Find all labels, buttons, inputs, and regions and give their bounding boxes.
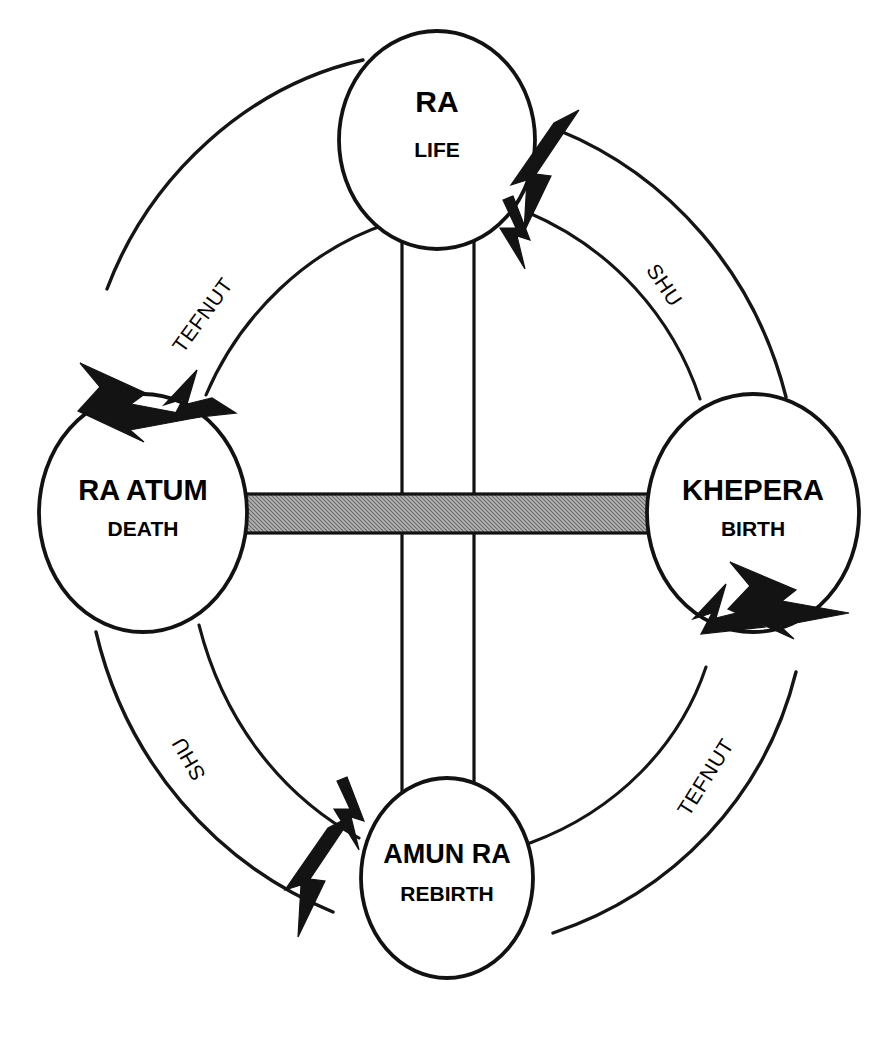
node-ra-atum-subtitle: DEATH	[108, 517, 179, 540]
node-ra-atum-title: RA ATUM	[78, 474, 207, 506]
node-amun-ra-shape[interactable]	[361, 778, 533, 978]
node-ra[interactable]: RA LIFE	[339, 31, 535, 249]
arc-outer-upper-right	[558, 130, 786, 397]
band-vertical	[402, 205, 474, 870]
cycle-diagram-canvas: RA LIFE RA ATUM DEATH KHEPERA BIRTH AMUN…	[0, 0, 889, 1037]
node-ra-subtitle: LIFE	[414, 138, 460, 161]
node-amun-ra[interactable]: AMUN RA REBIRTH	[361, 778, 533, 978]
arc-ra-atum-to-amun-ra	[96, 625, 359, 912]
arc-inner-lower-right	[530, 667, 706, 843]
node-amun-ra-subtitle: REBIRTH	[400, 882, 493, 905]
arc-label-tefnut-upper-left: TEFNUT	[168, 273, 237, 356]
node-khepera-title: KHEPERA	[682, 474, 824, 506]
bolt-at-amun-ra-icon	[285, 777, 364, 937]
arc-inner-upper-left	[206, 223, 390, 395]
band-horizontal-fill	[240, 494, 655, 533]
node-ra-atum-shape[interactable]	[39, 394, 247, 632]
node-amun-ra-title: AMUN RA	[383, 839, 511, 869]
arc-label-tefnut-lower-right: TEFNUT	[673, 734, 738, 819]
arc-outer-lower-right	[553, 672, 796, 933]
solar-cycle-diagram: RA LIFE RA ATUM DEATH KHEPERA BIRTH AMUN…	[0, 0, 889, 1037]
bolt-at-amun-ra-left	[285, 815, 353, 937]
arc-inner-lower-left	[199, 625, 359, 838]
arc-amun-ra-to-khepera	[530, 667, 796, 933]
band-vertical-fill	[402, 205, 474, 870]
node-khepera-subtitle: BIRTH	[721, 517, 785, 540]
node-ra-atum[interactable]: RA ATUM DEATH	[39, 394, 247, 632]
node-ra-title: RA	[415, 85, 458, 118]
arc-label-shu-lower-left: SHU	[167, 733, 210, 784]
band-horizontal	[240, 494, 655, 533]
